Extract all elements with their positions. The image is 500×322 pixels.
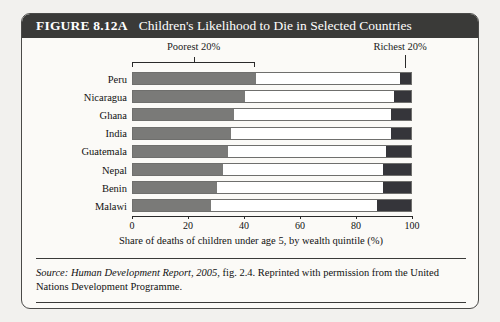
- category-label-india: India: [105, 128, 127, 139]
- figure-title-banner: FIGURE 8.12A Children's Likelihood to Di…: [22, 14, 479, 38]
- bar-segment-richest: [400, 73, 411, 84]
- source-divider-bottom: [36, 302, 466, 303]
- bar-segment-poorest: [133, 146, 228, 157]
- x-axis-tick-label: 40: [239, 220, 249, 231]
- x-axis-title: Share of deaths of children under age 5,…: [22, 235, 479, 246]
- page-title: Children's Likelihood to Die in Selected…: [139, 18, 412, 34]
- bar-segment-poorest: [133, 109, 234, 120]
- stacked-bar-benin: [132, 181, 412, 194]
- bar-segment-poorest: [133, 200, 211, 211]
- stacked-bar-guatemala: [132, 145, 412, 158]
- x-axis-tick-label: 100: [405, 220, 420, 231]
- chart-plot-area: Poorest 20%Richest 20% PeruNicaraguaGhan…: [22, 38, 479, 252]
- stacked-bar-nicaragua: [132, 90, 412, 103]
- x-axis-tick-label: 80: [351, 220, 361, 231]
- x-axis-tick: [244, 216, 245, 219]
- table-row: Benin: [132, 181, 412, 194]
- x-axis-tick-label: 0: [130, 220, 135, 231]
- table-row: Peru: [132, 72, 412, 85]
- category-label-peru: Peru: [108, 73, 127, 84]
- x-axis-line: [132, 216, 412, 217]
- stacked-bar-india: [132, 127, 412, 140]
- figure-card: FIGURE 8.12A Children's Likelihood to Di…: [21, 13, 479, 309]
- stacked-bar-ghana: [132, 108, 412, 121]
- category-label-benin: Benin: [102, 182, 127, 193]
- source-note: Source: Human Development Report, 2005, …: [36, 266, 468, 294]
- bar-segment-poorest: [133, 164, 223, 175]
- x-axis: 020406080100Share of deaths of children …: [22, 216, 479, 262]
- category-label-guatemala: Guatemala: [82, 146, 127, 157]
- source-citation: Human Development Report, 2005,: [71, 267, 220, 278]
- bar-segment-poorest: [133, 182, 217, 193]
- table-row: Malawi: [132, 199, 412, 212]
- x-axis-tick-label: 60: [295, 220, 305, 231]
- bar-segment-poorest: [133, 73, 256, 84]
- category-label-malawi: Malawi: [95, 200, 127, 211]
- bar-segment-richest: [386, 146, 411, 157]
- x-axis-tick: [300, 216, 301, 219]
- bar-segment-richest: [394, 91, 411, 102]
- bar-segment-poorest: [133, 128, 231, 139]
- bar-segment-richest: [383, 182, 411, 193]
- table-row: Guatemala: [132, 145, 412, 158]
- bar-segment-richest: [391, 128, 411, 139]
- bar-segment-richest: [383, 164, 411, 175]
- table-row: Ghana: [132, 108, 412, 121]
- x-axis-tick: [356, 216, 357, 219]
- bar-segment-richest: [391, 109, 411, 120]
- bar-segment-poorest: [133, 91, 245, 102]
- bar-segment-richest: [377, 200, 411, 211]
- figure-number-label: FIGURE 8.12A: [36, 18, 128, 34]
- x-axis-tick-label: 20: [183, 220, 193, 231]
- source-prefix: Source:: [36, 267, 68, 278]
- source-divider-top: [36, 258, 466, 259]
- x-axis-tick: [412, 216, 413, 219]
- x-axis-tick: [132, 216, 133, 219]
- x-axis-tick: [188, 216, 189, 219]
- category-label-nepal: Nepal: [102, 164, 127, 175]
- table-row: Nepal: [132, 163, 412, 176]
- stacked-bar-nepal: [132, 163, 412, 176]
- stacked-bar-peru: [132, 72, 412, 85]
- figure-root: FIGURE 8.12A Children's Likelihood to Di…: [0, 0, 500, 322]
- category-label-ghana: Ghana: [100, 109, 127, 120]
- category-label-nicaragua: Nicaragua: [84, 91, 127, 102]
- stacked-bar-malawi: [132, 199, 412, 212]
- table-row: Nicaragua: [132, 90, 412, 103]
- table-row: India: [132, 127, 412, 140]
